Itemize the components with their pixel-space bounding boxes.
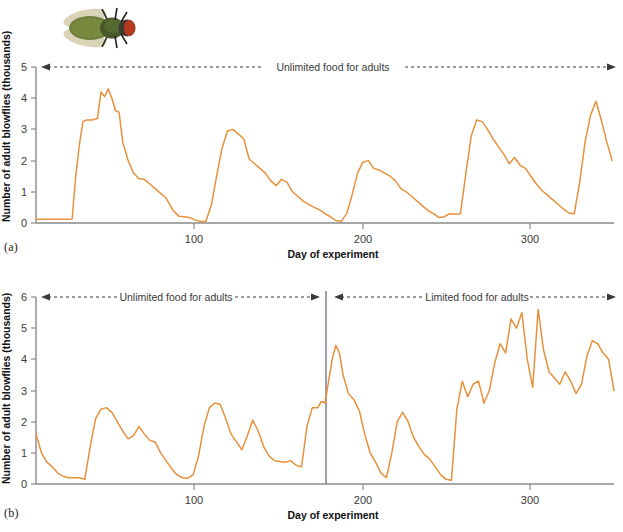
annotation-limited-food-b: Limited food for adults (334, 291, 616, 303)
plot-area-a: 5 4 3 2 1 0 100 200 300 (0, 0, 623, 266)
data-line-b (36, 309, 614, 480)
x-tick-b-300: 300 (521, 494, 539, 506)
panel-a: Number of adult blowflies (thousands) 5 … (0, 0, 623, 266)
x-tick-a-200: 200 (354, 233, 372, 245)
x-tick-a-300: 300 (521, 233, 539, 245)
y-tick-b-5: 5 (21, 322, 27, 334)
y-tick-b-3: 3 (21, 385, 27, 397)
x-ticks-a: 100 200 300 (185, 223, 539, 245)
y-ticks-b: 6 5 4 3 2 1 0 (21, 291, 36, 490)
panel-label-a: (a) (4, 240, 18, 255)
x-axis-label-a: Day of experiment (263, 248, 403, 260)
annotation-label-b-0: Unlimited food for adults (119, 291, 232, 303)
y-tick-a-3: 3 (21, 123, 27, 135)
annotation-label-b-1: Limited food for adults (425, 291, 528, 303)
plot-area-b: 6 5 4 3 2 1 0 100 200 300 (0, 266, 623, 532)
panel-b: Number of adult blowflies (thousands) 6 … (0, 266, 623, 532)
x-tick-b-200: 200 (354, 494, 372, 506)
y-tick-b-6: 6 (21, 291, 27, 303)
data-line-a (36, 89, 612, 222)
y-tick-a-4: 4 (21, 92, 27, 104)
y-tick-a-1: 1 (21, 186, 27, 198)
y-ticks-a: 5 4 3 2 1 0 (21, 61, 36, 229)
blowfly-population-figure: Number of adult blowflies (thousands) 5 … (0, 0, 623, 532)
y-tick-a-2: 2 (21, 155, 27, 167)
x-axis-label-b: Day of experiment (263, 509, 403, 521)
x-tick-b-100: 100 (185, 494, 203, 506)
y-tick-b-1: 1 (21, 447, 27, 459)
x-ticks-b: 100 200 300 (185, 484, 539, 506)
annotation-unlimited-food-b: Unlimited food for adults (41, 291, 320, 303)
y-tick-b-0: 0 (21, 478, 27, 490)
x-tick-a-100: 100 (185, 233, 203, 245)
panel-label-b: (b) (4, 506, 19, 521)
annotation-label-a-0: Unlimited food for adults (276, 61, 389, 73)
y-tick-b-2: 2 (21, 416, 27, 428)
y-tick-b-4: 4 (21, 353, 27, 365)
y-tick-a-5: 5 (21, 61, 27, 73)
y-tick-a-0: 0 (21, 217, 27, 229)
annotation-unlimited-food-a: Unlimited food for adults (41, 61, 616, 73)
